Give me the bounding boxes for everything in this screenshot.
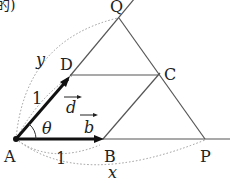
label-c: C <box>164 65 176 84</box>
line-bc <box>103 73 160 139</box>
fragment-text: 的) <box>0 0 15 13</box>
vec-d-overarrow-head <box>77 95 82 99</box>
label-len-ab: 1 <box>56 149 66 168</box>
vector-b-arrowhead <box>94 135 104 143</box>
label-a: A <box>3 147 16 166</box>
label-q: Q <box>110 0 123 16</box>
label-y: y <box>35 50 46 69</box>
line-qp <box>119 18 205 139</box>
label-len-ad: 1 <box>32 89 42 108</box>
line-dq <box>70 0 135 76</box>
label-x: x <box>108 163 117 178</box>
point-a-dot <box>13 136 19 142</box>
label-p: P <box>200 147 211 166</box>
geometry-diagram: 的) A B C D P Q y x θ 1 1 d b <box>0 0 235 178</box>
label-vec-b: b <box>84 118 94 137</box>
label-vec-d: d <box>66 98 76 117</box>
label-theta: θ <box>42 119 52 138</box>
label-d: D <box>60 55 73 74</box>
angle-arc <box>29 124 36 139</box>
vec-b-overarrow-head <box>93 113 98 117</box>
